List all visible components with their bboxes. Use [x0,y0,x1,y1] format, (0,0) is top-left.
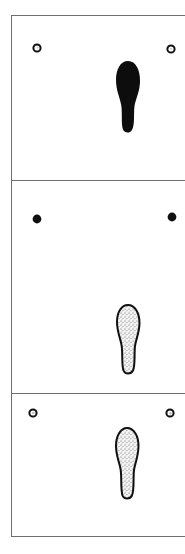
panel-2 [33,213,177,374]
marker-ring-icon [166,409,173,416]
panel-3 [29,409,173,498]
marker-ring-icon [33,44,40,51]
footprint-stippled-icon [117,305,140,374]
marker-dot-icon [33,215,42,224]
footprint-solid-icon [116,61,140,133]
figure-canvas: Three stacked panels, each with two refe… [0,0,185,554]
marker-ring-icon [167,45,174,52]
marker-ring-icon [29,409,36,416]
footprint-stippled-icon [116,428,139,499]
figure-drawing [0,0,185,554]
panel-1 [33,44,174,132]
marker-dot-icon [168,213,177,222]
